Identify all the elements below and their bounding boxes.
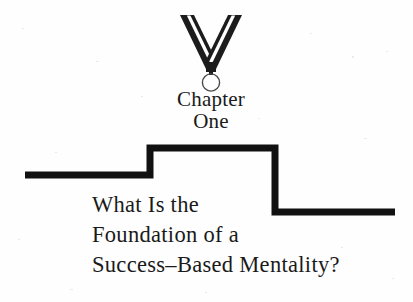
page-title-line-1: What Is the: [92, 190, 410, 220]
page-title-line-2: Foundation of a: [92, 220, 410, 250]
book-chapter-page: Chapter One What Is the Foundation of a …: [0, 0, 413, 302]
page-title: What Is the Foundation of a Success–Base…: [92, 190, 410, 280]
page-title-line-3: Success–Based Mentality?: [92, 250, 410, 280]
medal-ribbon-icon: [175, 12, 247, 92]
chapter-label: Chapter One: [145, 88, 277, 133]
chapter-label-line-1: Chapter: [145, 88, 277, 110]
chapter-label-line-2: One: [145, 110, 277, 132]
